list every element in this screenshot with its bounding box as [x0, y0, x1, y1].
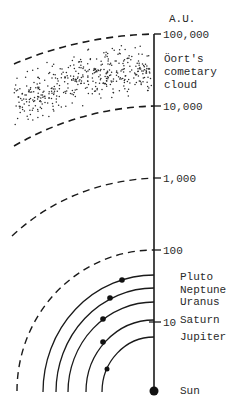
- tick-label-100: 100: [163, 245, 183, 257]
- planet-label-neptune: Neptune: [180, 284, 226, 296]
- sun-icon: [150, 387, 159, 396]
- planet-label-uranus: Uranus: [180, 296, 220, 308]
- cloud-outer-boundary: [14, 34, 154, 64]
- orbit-jupiter: [102, 337, 154, 392]
- orbit-pluto: [43, 275, 154, 392]
- planet-jupiter-icon: [105, 367, 110, 372]
- cometary-cloud-dots: [14, 45, 153, 125]
- tick-marks: [149, 106, 161, 322]
- planet-label-jupiter: Jupiter: [180, 331, 226, 343]
- orbit-uranus: [68, 302, 154, 392]
- cloud-label-line-1: Öort's: [164, 53, 204, 65]
- axis-unit-label: A.U.: [169, 13, 195, 25]
- cloud-inner-boundary: [14, 106, 154, 146]
- cloud-label-line-3: cloud: [164, 79, 197, 91]
- sun-label: Sun: [180, 385, 200, 397]
- arc-1000-au: [12, 178, 154, 236]
- orbit-saturn: [86, 320, 154, 392]
- planet-label-pluto: Pluto: [180, 271, 213, 283]
- tick-label-10000: 10,000: [163, 101, 203, 113]
- planet-neptune-icon: [107, 295, 113, 301]
- planet-label-saturn: Saturn: [180, 314, 220, 326]
- cloud-label-line-2: cometary: [164, 66, 217, 78]
- planet-pluto-icon: [119, 277, 125, 283]
- planet-saturn-icon: [100, 339, 106, 345]
- planet-uranus-icon: [100, 316, 106, 322]
- arc-100-au: [17, 250, 154, 391]
- oort-cloud-diagram: A.U. 100,000 10,000 1,000 100 10 Öort's …: [0, 0, 235, 418]
- tick-label-10: 10: [163, 317, 176, 329]
- tick-label-1000: 1,000: [163, 173, 196, 185]
- tick-label-100000: 100,000: [163, 29, 209, 41]
